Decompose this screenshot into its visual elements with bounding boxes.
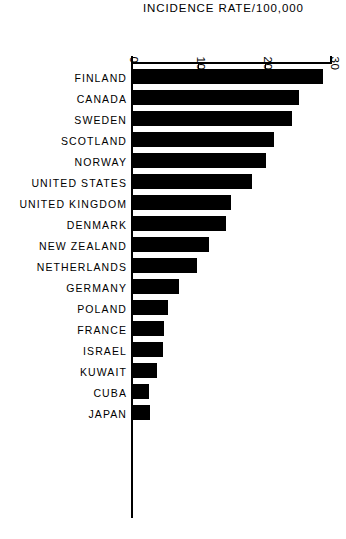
bar: [132, 216, 226, 231]
bar-row: CANADA: [0, 89, 346, 110]
bar-category-label: NETHERLANDS: [0, 260, 127, 274]
bar: [132, 132, 274, 147]
bar-row: JAPAN: [0, 404, 346, 425]
x-tick-mark-30: [330, 56, 332, 63]
bar-row: GERMANY: [0, 278, 346, 299]
bar: [132, 300, 168, 315]
bar-row: UNITED STATES: [0, 173, 346, 194]
x-tick-mark-0: [131, 56, 133, 63]
bar-row: NETHERLANDS: [0, 257, 346, 278]
bar-row: KUWAIT: [0, 362, 346, 383]
bar: [132, 321, 164, 336]
bar-category-label: SCOTLAND: [0, 134, 127, 148]
bar-row: NORWAY: [0, 152, 346, 173]
x-tick-mark-10: [198, 62, 200, 69]
bar-row: SCOTLAND: [0, 131, 346, 152]
bar-category-label: UNITED STATES: [0, 176, 127, 190]
bar: [132, 258, 197, 273]
x-axis-tick-labels: 0102030: [0, 26, 346, 56]
bar-row: NEW ZEALAND: [0, 236, 346, 257]
bar: [132, 384, 149, 399]
bar: [132, 195, 231, 210]
bar: [132, 153, 266, 168]
bar-category-label: CANADA: [0, 92, 127, 106]
bar-row: UNITED KINGDOM: [0, 194, 346, 215]
bar: [132, 174, 252, 189]
bar: [132, 342, 163, 357]
bar: [132, 237, 209, 252]
bar-category-label: UNITED KINGDOM: [0, 197, 127, 211]
bar: [132, 363, 157, 378]
bar-category-label: CUBA: [0, 386, 127, 400]
bar-row: SWEDEN: [0, 110, 346, 131]
bar-row: FINLAND: [0, 68, 346, 89]
bar-category-label: FRANCE: [0, 323, 127, 337]
bar-category-label: ISRAEL: [0, 344, 127, 358]
bar: [132, 69, 323, 84]
bar-category-label: POLAND: [0, 302, 127, 316]
bar-category-label: JAPAN: [0, 407, 127, 421]
bar: [132, 90, 299, 105]
bar-category-label: NORWAY: [0, 155, 127, 169]
x-tick-mark-20: [265, 62, 267, 69]
bar-category-label: DENMARK: [0, 218, 127, 232]
bar-row: ISRAEL: [0, 341, 346, 362]
bar: [132, 111, 292, 126]
bar-row: FRANCE: [0, 320, 346, 341]
chart-title: INCIDENCE RATE/100,000: [143, 2, 304, 14]
bars-area: FINLANDCANADASWEDENSCOTLANDNORWAYUNITED …: [0, 62, 346, 522]
bar-row: CUBA: [0, 383, 346, 404]
bar-category-label: FINLAND: [0, 71, 127, 85]
bar-category-label: KUWAIT: [0, 365, 127, 379]
bar-category-label: GERMANY: [0, 281, 127, 295]
bar-category-label: SWEDEN: [0, 113, 127, 127]
incidence-rate-bar-chart: INCIDENCE RATE/100,000 0102030 FINLANDCA…: [0, 0, 346, 539]
bar-row: POLAND: [0, 299, 346, 320]
bar: [132, 405, 150, 420]
bar: [132, 279, 179, 294]
bar-category-label: NEW ZEALAND: [0, 239, 127, 253]
bar-row: DENMARK: [0, 215, 346, 236]
